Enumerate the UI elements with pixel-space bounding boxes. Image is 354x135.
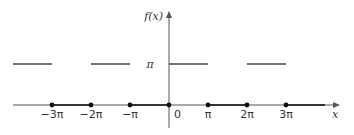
square-wave-plot: −3π −2π −π 0 π 2π 3π π x f(x)	[0, 0, 354, 135]
tick-label-3pi: 3π	[279, 108, 293, 121]
tick-label-neg2pi: −2π	[80, 108, 103, 121]
tick-label-2pi: 2π	[240, 108, 254, 121]
y-tick-label-pi: π	[145, 58, 154, 71]
tick-label-neg3pi: −3π	[41, 108, 64, 121]
x-axis-label: x	[332, 108, 339, 121]
tick-label-zero: 0	[174, 108, 181, 121]
tick-label-pi: π	[205, 108, 212, 121]
tick-label-negpi: −π	[122, 108, 138, 121]
y-axis-arrow-icon	[166, 11, 172, 18]
y-axis-label: f(x)	[143, 10, 163, 23]
